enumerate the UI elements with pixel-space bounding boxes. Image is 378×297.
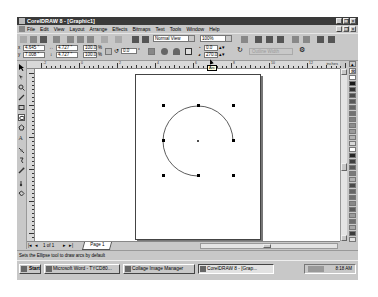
scale-y-field[interactable]: 100.0 — [83, 52, 97, 58]
cut-icon[interactable] — [67, 36, 74, 43]
tray-icons[interactable] — [308, 266, 324, 272]
selection-handle-br[interactable] — [232, 174, 235, 177]
color-swatch[interactable] — [349, 189, 356, 194]
color-swatch[interactable] — [349, 123, 356, 128]
script-manager-icon[interactable] — [266, 36, 273, 43]
interactive-transparency-tool-icon[interactable] — [18, 157, 25, 164]
interactive-fill-tool-icon[interactable] — [18, 147, 25, 154]
color-swatch[interactable] — [349, 105, 356, 110]
color-swatch[interactable] — [349, 201, 356, 206]
chevron-down-icon[interactable] — [188, 36, 194, 41]
color-swatch[interactable] — [349, 99, 356, 104]
selection-handle-tl[interactable] — [162, 104, 165, 107]
ellipse-mode-icon[interactable] — [161, 48, 168, 55]
open-icon[interactable] — [30, 36, 37, 43]
color-swatch[interactable] — [349, 129, 356, 134]
menu-tools[interactable]: Tools — [170, 25, 182, 33]
color-swatch[interactable] — [349, 225, 356, 230]
color-swatch[interactable] — [349, 135, 356, 140]
ellipse-tool-icon[interactable] — [18, 114, 25, 121]
taskbar-button-coreldraw[interactable]: CorelDRAW 8 - [Grap... — [198, 264, 274, 274]
rotation-field[interactable]: 0.0 — [121, 48, 137, 54]
selection-handle-tr[interactable] — [232, 104, 235, 107]
color-swatch[interactable] — [349, 237, 356, 242]
color-swatch[interactable] — [349, 141, 356, 146]
zoom-tool-icon[interactable] — [18, 84, 25, 91]
arc-shape[interactable] — [136, 75, 260, 239]
color-swatch[interactable] — [349, 165, 356, 170]
new-icon[interactable] — [20, 36, 27, 43]
outline-tool-icon[interactable] — [18, 180, 25, 187]
polygon-tool-icon[interactable] — [18, 124, 25, 131]
convert-to-curves-icon[interactable]: ⚙ — [299, 47, 305, 53]
menu-arrange[interactable]: Arrange — [89, 25, 107, 33]
end-angle-spinner[interactable]: ▴▾ — [219, 52, 225, 58]
color-swatch[interactable] — [349, 177, 356, 182]
scroll-down-button[interactable] — [341, 235, 347, 241]
selection-handle-bc[interactable] — [197, 174, 200, 177]
rectangle-tool-icon[interactable] — [18, 104, 25, 111]
next-page-button[interactable]: ▸ — [63, 243, 66, 249]
options-icon[interactable] — [328, 36, 335, 43]
view-mode-select[interactable]: Normal View — [153, 35, 195, 42]
object-manager-icon[interactable] — [277, 36, 284, 43]
menu-help[interactable]: Help — [209, 25, 219, 33]
selection-handle-mr[interactable] — [232, 139, 235, 142]
fill-tool-icon[interactable] — [18, 190, 25, 197]
scale-x-field[interactable]: 100.0 — [83, 45, 97, 51]
color-swatch[interactable] — [349, 219, 356, 224]
zoom-level-select[interactable]: 100% — [200, 35, 232, 42]
start-angle-spinner[interactable]: ▴▾ — [219, 45, 225, 51]
pie-mode-icon[interactable] — [173, 48, 180, 55]
end-angle-field[interactable]: 270.0 — [204, 52, 218, 58]
color-swatch[interactable] — [349, 171, 356, 176]
color-swatch[interactable] — [349, 183, 356, 188]
color-swatch[interactable] — [349, 81, 356, 86]
export-icon[interactable] — [142, 36, 149, 43]
selection-handle-bl[interactable] — [162, 174, 165, 177]
snap-to-guidelines-icon[interactable] — [303, 36, 310, 43]
paste-icon[interactable] — [87, 36, 94, 43]
close-button[interactable]: × — [350, 18, 356, 24]
menu-effects[interactable]: Effects — [112, 25, 127, 33]
shape-tool-icon[interactable] — [18, 74, 25, 81]
text-tool-icon[interactable]: A — [18, 134, 25, 141]
doc-close-button[interactable]: × — [350, 26, 356, 32]
menu-text[interactable]: Text — [156, 25, 165, 33]
menu-view[interactable]: View — [54, 25, 65, 33]
width-field[interactable]: 4.727 " — [56, 45, 78, 51]
color-swatch[interactable] — [349, 147, 356, 152]
pick-tool-icon[interactable] — [18, 64, 25, 71]
color-swatch[interactable] — [349, 207, 356, 212]
horizontal-ruler[interactable]: inches -2024681012 — [35, 61, 340, 69]
color-swatch[interactable] — [349, 231, 356, 236]
horizontal-scrollbar[interactable] — [200, 243, 338, 249]
taskbar-button-collage[interactable]: Collage Image Manager — [123, 264, 195, 274]
color-swatch[interactable] — [349, 213, 356, 218]
freehand-tool-icon[interactable] — [18, 94, 25, 101]
mirror-button[interactable] — [148, 48, 155, 55]
color-swatch[interactable] — [349, 93, 356, 98]
eyedropper-tool-icon[interactable] — [18, 167, 25, 174]
save-icon[interactable] — [40, 36, 47, 43]
menu-layout[interactable]: Layout — [69, 25, 84, 33]
x-position-field[interactable]: 4.645 " — [23, 45, 45, 51]
minimize-button[interactable]: _ — [336, 18, 342, 24]
menu-bitmaps[interactable]: Bitmaps — [132, 25, 150, 33]
no-fill-swatch[interactable]: ⊠ — [349, 68, 356, 74]
drawing-canvas[interactable] — [35, 69, 340, 241]
start-angle-field[interactable]: 0.0 — [204, 45, 218, 51]
snap-to-grid-icon[interactable] — [292, 36, 299, 43]
palette-scroll-up-button[interactable]: ▴ — [349, 61, 356, 67]
color-swatch[interactable] — [349, 111, 356, 116]
color-swatch[interactable] — [349, 87, 356, 92]
direction-icon[interactable]: ↻ — [237, 47, 243, 53]
start-button[interactable]: Start — [19, 264, 41, 274]
color-swatch[interactable] — [349, 117, 356, 122]
y-position-field[interactable]: 7.008 " — [23, 52, 45, 58]
redo-icon[interactable] — [115, 36, 122, 43]
selection-handle-tc[interactable] — [197, 104, 200, 107]
height-field[interactable]: 4.727 " — [56, 52, 78, 58]
whats-this-icon[interactable] — [317, 36, 324, 43]
color-swatch[interactable] — [349, 159, 356, 164]
